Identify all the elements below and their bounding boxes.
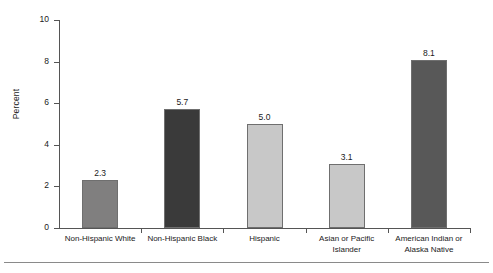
bar: 5.7 <box>164 109 200 228</box>
bar: 5.0 <box>247 124 283 228</box>
x-axis-category-label: Non-Hispanic Black <box>141 234 223 245</box>
y-tick-label: 0 <box>9 222 49 233</box>
bar: 3.1 <box>329 164 365 228</box>
x-tick-mark <box>223 229 224 233</box>
x-tick-mark <box>141 229 142 233</box>
y-tick-label: 6 <box>9 97 49 108</box>
bar-value-label: 5.7 <box>176 97 188 108</box>
bar-value-label: 5.0 <box>259 112 271 123</box>
bar-chart-figure: Percent 0246810 2.35.75.03.18.1 Non-Hisp… <box>0 0 493 273</box>
bar-value-label: 3.1 <box>341 152 353 163</box>
bar-value-label: 2.3 <box>94 168 106 179</box>
x-tick-mark <box>306 229 307 233</box>
bar: 8.1 <box>411 60 447 228</box>
x-axis-category-label: Hispanic <box>223 234 305 245</box>
x-tick-mark <box>388 229 389 233</box>
plot-area: 2.35.75.03.18.1 <box>59 20 470 228</box>
x-axis-category-label: American Indian or Alaska Native <box>388 234 470 255</box>
y-tick-label: 4 <box>9 139 49 150</box>
bar-value-label: 8.1 <box>423 48 435 59</box>
bar: 2.3 <box>82 180 118 228</box>
x-axis-category-label: Asian or Pacific Islander <box>306 234 388 255</box>
y-tick-label: 10 <box>9 14 49 25</box>
y-tick-label: 2 <box>9 180 49 191</box>
y-tick-mark <box>54 228 59 229</box>
x-axis-category-label: Non-Hispanic White <box>59 234 141 245</box>
footer-divider <box>4 262 489 263</box>
x-axis-line <box>59 228 471 229</box>
x-tick-mark <box>470 229 471 233</box>
y-tick-label: 8 <box>9 56 49 67</box>
